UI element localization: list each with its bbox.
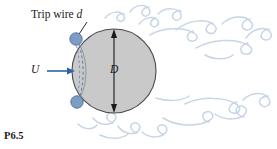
- wake-curl: [78, 124, 97, 129]
- upper-trip-wire: [70, 33, 82, 45]
- figure-canvas: [0, 0, 277, 149]
- wake-curl: [246, 29, 271, 40]
- figure-number: P6.5: [4, 131, 24, 142]
- wake-curl: [105, 12, 124, 21]
- wake-curl: [205, 55, 233, 59]
- wake-curl: [222, 17, 252, 30]
- wake-curl: [142, 125, 167, 137]
- wake-curl: [130, 5, 150, 16]
- wake-curl: [150, 29, 197, 41]
- trip-wire-leader-line: [79, 22, 88, 35]
- wake-curl: [139, 17, 158, 26]
- wake-curl: [243, 94, 270, 107]
- trip-wire-label: Trip wire d: [31, 9, 82, 21]
- wake-curl: [196, 40, 252, 54]
- diameter-label: D: [110, 64, 118, 76]
- velocity-label: U: [31, 64, 39, 76]
- lower-trip-wire: [71, 96, 83, 108]
- figure-p6-5: Trip wire d U D P6.5: [0, 0, 277, 149]
- wake-curl: [156, 96, 189, 100]
- wake-curl: [163, 112, 213, 125]
- wake-curl: [176, 21, 216, 34]
- wake-curl: [118, 123, 140, 134]
- freestream-arrow: [47, 68, 75, 75]
- wake-curl: [100, 134, 128, 138]
- wake-curl: [185, 98, 240, 113]
- wake-curl: [158, 9, 181, 20]
- trip-wire-label-text: Trip wire: [31, 8, 74, 20]
- trip-wire-symbol: d: [77, 8, 83, 20]
- wake-curl: [93, 113, 116, 124]
